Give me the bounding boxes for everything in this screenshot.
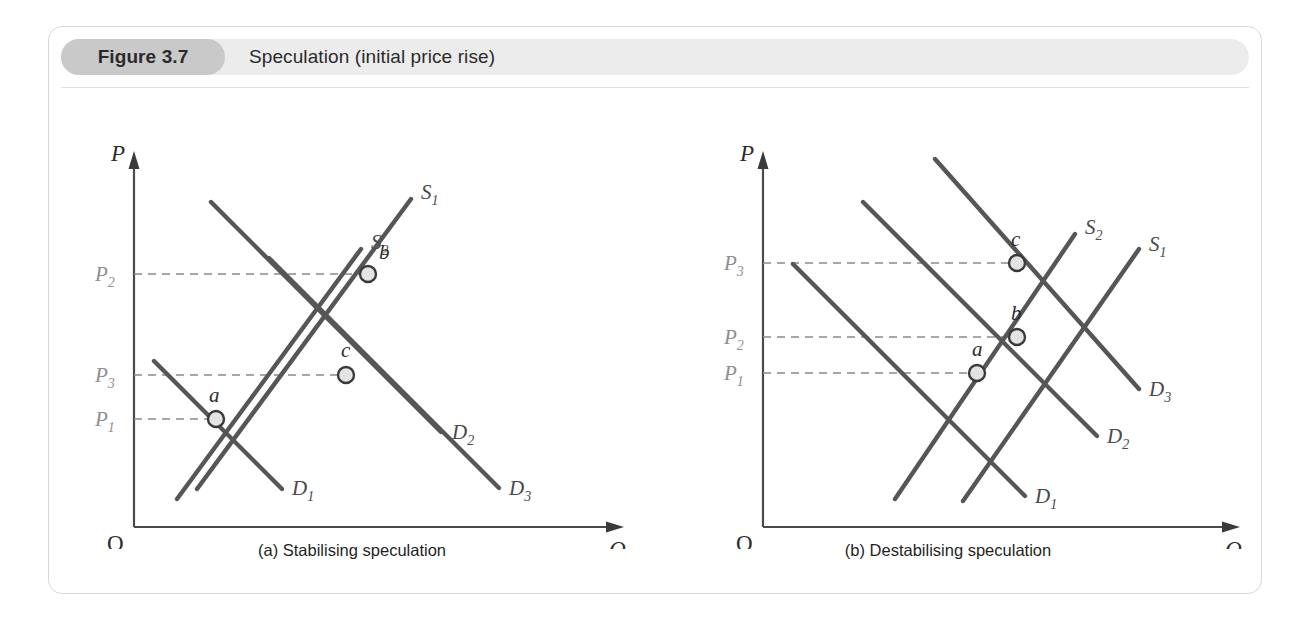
chart-a-tick-2-sub: 1: [108, 420, 115, 435]
chart-b-tick-2-sub: 1: [737, 374, 744, 389]
svg-text:P3: P3: [94, 363, 115, 391]
chart-a-demand-curves: [154, 202, 499, 489]
chart-b-tick-1-sub: 2: [737, 338, 744, 353]
chart-a-svg: P Q O P2 P3 P1: [49, 89, 655, 549]
header-strip: [61, 39, 1249, 75]
figure-title: Speculation (initial price rise): [249, 39, 495, 75]
svg-text:P1: P1: [94, 407, 115, 435]
chart-b-point-a-label: a: [972, 337, 983, 361]
chart-a-price-tick-labels: P2 P3 P1: [94, 262, 115, 435]
chart-a-equilibrium-points: [208, 266, 376, 427]
figure-card: Figure 3.7 Speculation (initial price ri…: [48, 26, 1262, 594]
chart-a-curve-labels: S1 S2 D1 D2 D3: [291, 180, 531, 504]
svg-text:P2: P2: [723, 325, 744, 353]
chart-b-svg: P Q O P3 P2 P1: [645, 89, 1251, 549]
chart-a-curve-s1-label: S1: [421, 180, 439, 208]
chart-b-curve-d1-label: D1: [1034, 484, 1057, 512]
chart-b-point-b-label: b: [1011, 301, 1022, 325]
svg-text:P1: P1: [723, 361, 744, 389]
figure-header: Figure 3.7 Speculation (initial price ri…: [49, 27, 1261, 85]
chart-b-tick-2-label: P: [723, 361, 737, 385]
chart-a-axes: [129, 151, 625, 533]
chart-b-tick-1-label: P: [723, 325, 737, 349]
chart-a-point-c-label: c: [341, 338, 351, 362]
plot-area: P Q O P2 P3 P1: [49, 89, 1261, 593]
chart-a-curve-d1-label: D1: [291, 476, 314, 504]
figure-number-badge: Figure 3.7: [61, 39, 225, 75]
chart-a-tick-1-sub: 3: [107, 376, 115, 391]
chart-b-tick-0-sub: 3: [736, 264, 744, 279]
chart-a-tick-1-label: P: [94, 363, 108, 387]
chart-b-demand-curves: [793, 159, 1139, 496]
chart-b-curve-s1-label: S1: [1149, 232, 1167, 260]
chart-b-axes: [758, 151, 1241, 533]
chart-b-price-tick-labels: P3 P2 P1: [723, 251, 744, 389]
chart-b-curve-labels: S2 S1 D1 D2 D3: [1034, 215, 1171, 512]
header-divider: [61, 87, 1249, 88]
panel-stabilising-speculation: P Q O P2 P3 P1: [49, 89, 655, 593]
chart-a-tick-2-label: P: [94, 407, 108, 431]
chart-b-y-axis-label: P: [739, 141, 754, 166]
chart-b-curve-s2-label: S2: [1085, 215, 1103, 243]
chart-a-curve-d2-label: D2: [451, 420, 474, 448]
panel-b-caption: (b) Destabilising speculation: [645, 541, 1251, 560]
chart-b-curve-d2-label: D2: [1106, 424, 1129, 452]
svg-text:P3: P3: [723, 251, 744, 279]
chart-b-supply-curves: [895, 234, 1139, 501]
chart-a-tick-0-sub: 2: [108, 275, 115, 290]
figure-page: Figure 3.7 Speculation (initial price ri…: [0, 0, 1314, 634]
chart-a-curve-d3-label: D3: [508, 476, 531, 504]
chart-a-y-axis-label: P: [110, 141, 125, 166]
panel-destabilising-speculation: P Q O P3 P2 P1: [645, 89, 1251, 593]
chart-a-tick-0-label: P: [94, 262, 108, 286]
chart-a-point-a-label: a: [209, 383, 220, 407]
chart-b-tick-0-label: P: [723, 251, 737, 275]
chart-b-point-c-label: c: [1011, 227, 1021, 251]
svg-text:P2: P2: [94, 262, 115, 290]
figure-number-label: Figure 3.7: [98, 46, 189, 68]
chart-b-curve-d3-label: D3: [1148, 377, 1171, 405]
panel-a-caption: (a) Stabilising speculation: [49, 541, 655, 560]
